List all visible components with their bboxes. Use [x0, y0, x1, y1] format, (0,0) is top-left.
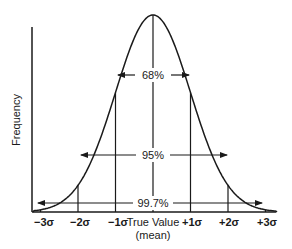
label-99-7-percent: 99.7% [137, 197, 168, 209]
range-68: 68% [118, 68, 189, 82]
tick-minus-1-sigma: −1σ [108, 216, 129, 228]
label-68-percent: 68% [142, 69, 164, 81]
range-95: 95% [81, 148, 227, 162]
label-95-percent: 95% [142, 149, 164, 161]
tick-plus-2-sigma: +2σ [219, 216, 240, 228]
tick-plus-1-sigma: +1σ [182, 216, 203, 228]
bell-curve [33, 15, 277, 212]
normal-distribution-diagram: 68% 95% 99.7% −3σ −2σ −1σ +1σ +2σ +3σ Tr… [0, 0, 292, 249]
y-axis-label: Frequency [10, 94, 22, 146]
tick-minus-3-sigma: −3σ [34, 216, 55, 228]
tick-minus-2-sigma: −2σ [70, 216, 91, 228]
x-axis-label: True Value [127, 216, 180, 228]
x-axis-sublabel: (mean) [136, 229, 171, 241]
tick-plus-3-sigma: +3σ [257, 216, 278, 228]
